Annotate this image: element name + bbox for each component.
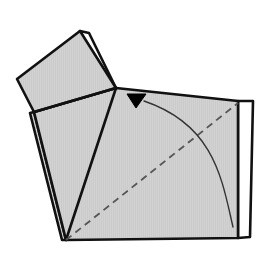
back-layer-right-shape (238, 101, 253, 238)
origami-diagram (0, 0, 274, 260)
origami-svg (0, 0, 274, 260)
main-body-shape (34, 88, 238, 240)
